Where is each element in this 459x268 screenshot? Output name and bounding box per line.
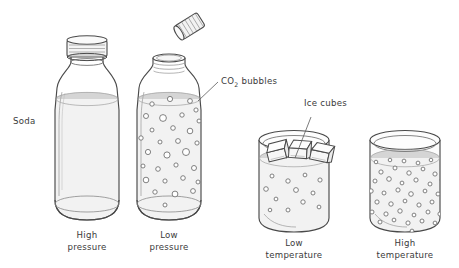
- bubble: [145, 149, 150, 154]
- caption-low-pressure-line1: Low: [160, 230, 178, 240]
- bubble: [286, 179, 290, 183]
- caption-low-temperature-line2: temperature: [266, 250, 323, 260]
- bubble: [378, 220, 382, 224]
- bubble: [420, 219, 424, 223]
- bubble: [366, 199, 370, 203]
- bubble: [318, 178, 322, 182]
- bubble: [370, 210, 374, 214]
- bubble: [192, 166, 197, 171]
- bubble: [180, 113, 184, 117]
- bubble: [158, 140, 162, 144]
- bubble: [167, 96, 172, 101]
- bottle1-neck-collar: [71, 59, 104, 66]
- bubble: [264, 187, 269, 192]
- label-ice-cubes: Ice cubes: [304, 98, 347, 108]
- bubble: [139, 136, 143, 140]
- bubble: [163, 203, 167, 207]
- bubble: [423, 189, 427, 193]
- bubble: [143, 177, 149, 183]
- bubble: [364, 213, 368, 217]
- bubble: [156, 167, 161, 172]
- bubble: [382, 191, 386, 195]
- bubble: [388, 158, 392, 162]
- bubble: [426, 210, 430, 214]
- glass2-rim-outer: [370, 131, 440, 150]
- bubble: [406, 221, 410, 225]
- bubble: [268, 208, 272, 212]
- bubble: [181, 176, 186, 181]
- bubble: [286, 208, 290, 212]
- co2-leader-line: [198, 82, 218, 101]
- co2-prefix: CO: [221, 76, 234, 86]
- bubble: [160, 115, 167, 122]
- bubble: [153, 190, 157, 194]
- bubble: [389, 202, 393, 206]
- bubble: [392, 218, 396, 222]
- panel-high-pressure: High pressure: [50, 36, 126, 252]
- bubble: [416, 161, 420, 165]
- bubble: [373, 179, 377, 183]
- bubble: [188, 99, 193, 104]
- bubble: [402, 159, 406, 163]
- bubble: [444, 208, 448, 212]
- co2-suffix: bubbles: [238, 76, 277, 86]
- bubble: [396, 188, 400, 192]
- bubble: [430, 200, 434, 204]
- bubble: [197, 119, 201, 123]
- bubble: [144, 114, 149, 119]
- bubble: [274, 197, 278, 201]
- bubble: [412, 213, 416, 217]
- caption-high-temperature-line2: temperature: [377, 250, 434, 260]
- panel-low-temperature: Ice cubes Low temperature: [255, 98, 347, 260]
- bubble: [393, 166, 397, 170]
- bubble: [294, 188, 299, 193]
- bubble: [429, 158, 433, 162]
- caption-high-temperature-line1: High: [395, 238, 416, 248]
- caption-low-temperature-line1: Low: [285, 238, 303, 248]
- bubble: [301, 200, 305, 204]
- bubble: [150, 128, 154, 132]
- bubble: [164, 152, 170, 158]
- bubble: [311, 191, 315, 195]
- bubble: [428, 182, 432, 186]
- bubble: [374, 160, 378, 164]
- bubble: [196, 180, 200, 184]
- bubble: [375, 200, 379, 204]
- caption-low-pressure-line2: pressure: [149, 242, 188, 252]
- bubble: [407, 171, 411, 175]
- bubble: [387, 177, 392, 182]
- flying-cap: [172, 12, 205, 41]
- bubble: [150, 102, 154, 106]
- bubble: [187, 128, 193, 134]
- bubble: [183, 149, 190, 156]
- bubble: [384, 212, 388, 216]
- bubble: [176, 139, 181, 144]
- bubble: [398, 209, 402, 213]
- bubble: [172, 191, 178, 197]
- figure-canvas: High pressure: [0, 0, 459, 268]
- bubble: [270, 174, 274, 178]
- bottle1-cap: [67, 36, 107, 61]
- bubble: [317, 205, 321, 209]
- label-soda: Soda: [13, 116, 35, 126]
- bubble: [303, 173, 307, 177]
- bubble: [409, 192, 414, 197]
- caption-high-pressure-line1: High: [77, 230, 98, 240]
- panel-low-pressure: Low pressure: [132, 12, 208, 252]
- bubble: [433, 172, 437, 176]
- caption-high-pressure-line2: pressure: [67, 242, 106, 252]
- solubility-diagram: High pressure: [0, 0, 459, 268]
- panel-high-temperature: High temperature: [364, 130, 448, 260]
- bubble: [436, 192, 440, 196]
- bubble: [433, 221, 437, 225]
- bubble: [414, 178, 418, 182]
- bubble: [442, 198, 446, 202]
- bubble: [163, 179, 167, 183]
- ice-cube: [288, 140, 311, 159]
- bubble: [438, 212, 442, 216]
- bubble: [174, 163, 178, 167]
- bubble: [417, 203, 421, 207]
- bubble: [400, 181, 404, 185]
- bottle2-open-neck: [153, 54, 185, 73]
- bubble: [421, 167, 425, 171]
